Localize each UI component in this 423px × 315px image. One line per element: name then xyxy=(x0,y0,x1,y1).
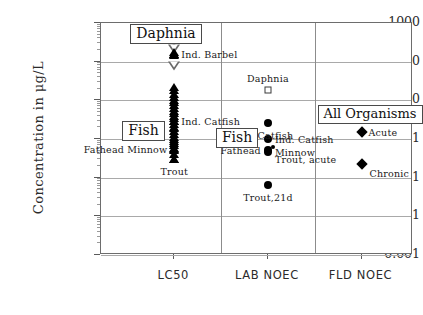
gridline-horizontal xyxy=(101,216,411,217)
point-label: Trout, acute xyxy=(275,154,337,165)
filled-diamond-marker xyxy=(356,127,367,138)
point-label: Chronic xyxy=(370,167,410,178)
point-label: Trout xyxy=(161,166,189,177)
filled-diamond-marker xyxy=(356,158,367,169)
point-label: Daphnia xyxy=(247,73,289,84)
y-axis-title: Concentration in μg/L xyxy=(31,18,46,258)
point-label: Trout,21d xyxy=(243,191,293,202)
gridline-horizontal xyxy=(101,255,411,256)
filled-triangle-up-marker xyxy=(169,50,179,58)
plot-area: Ind. BarbelInd. CatfishFathead MinnowTro… xyxy=(100,22,412,254)
x-axis-tick-label: FLD NOEC xyxy=(316,268,406,282)
point-label: Ind. Catfish xyxy=(181,116,240,127)
gridline-horizontal xyxy=(101,100,411,101)
gridline-horizontal xyxy=(101,178,411,179)
filled-triangle-up-marker xyxy=(169,145,179,153)
point-label: Ind. Catfish xyxy=(275,134,334,145)
open-square-marker xyxy=(264,87,271,94)
x-axis-tick-label: LC50 xyxy=(128,268,218,282)
filled-circle-marker xyxy=(264,148,272,156)
gridline-horizontal xyxy=(101,62,411,63)
x-axis-tick-label: LAB NOEC xyxy=(222,268,312,282)
point-label: Fathead Minnow xyxy=(84,144,168,155)
group-label-box: Fish xyxy=(216,128,258,148)
group-label-box: Daphnia xyxy=(130,24,201,44)
y-axis-tick-mark xyxy=(94,254,100,255)
point-label: Acute xyxy=(369,127,398,138)
open-triangle-down-marker xyxy=(168,62,180,71)
filled-circle-marker xyxy=(264,119,272,127)
group-label-box: Fish xyxy=(122,121,164,141)
filled-triangle-up-marker xyxy=(169,117,179,125)
group-label-box: All Organisms xyxy=(318,105,423,124)
filled-circle-marker xyxy=(264,181,272,189)
point-label: Ind. Barbel xyxy=(181,48,237,59)
filled-triangle-up-marker xyxy=(169,155,179,163)
